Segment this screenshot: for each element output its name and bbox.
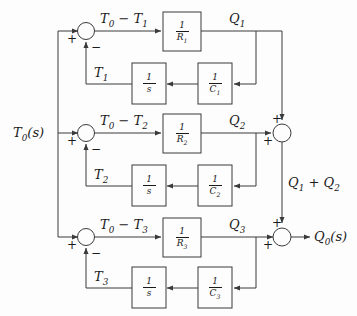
intermediate-sum-label: Q1 + Q2 <box>288 176 340 192</box>
branch-3-integrator-block-label: 1s <box>132 277 166 298</box>
branch-2-feedback-label: T2 <box>94 168 108 184</box>
branch-1-sum-minus: − <box>91 41 101 53</box>
input-signal-label: T0(s) <box>13 126 44 142</box>
lower-adder-plus-top: + <box>272 217 282 229</box>
lower-adder-plus-left: + <box>263 239 273 251</box>
upper-adder-plus-left: + <box>263 135 273 147</box>
branch-1-gain-block-label: 1R1 <box>163 21 201 44</box>
branch-3-flow-label: Q3 <box>229 218 245 234</box>
branch-3-error-label: T0 − T3 <box>100 218 148 234</box>
branch-2-gain-block-label: 1R2 <box>163 123 201 146</box>
branch-3-feedback-label: T3 <box>94 270 108 286</box>
branch-2-integrator-block-label: 1s <box>132 175 166 196</box>
branch-1-flow-label: Q1 <box>229 12 245 28</box>
branch-3-gain-block-label: 1R3 <box>163 227 201 250</box>
branch-3-capacitance-block-label: 1C3 <box>198 277 232 300</box>
branch-1-feedback-label: T1 <box>94 66 108 82</box>
branch-2-sum-minus: − <box>91 143 101 155</box>
branch-3-sum-minus: − <box>91 247 101 259</box>
branch-1-integrator-block-label: 1s <box>132 73 166 94</box>
branch-2-sum-plus: + <box>67 135 77 147</box>
output-signal-label: Q0(s) <box>314 230 347 246</box>
branch-2-capacitance-block-label: 1C2 <box>198 175 232 198</box>
diagram-canvas <box>0 0 357 316</box>
branch-1-capacitance-block-label: 1C1 <box>198 73 232 96</box>
branch-1-sum-plus: + <box>67 33 77 45</box>
branch-3-sum-plus: + <box>67 239 77 251</box>
branch-2-flow-label: Q2 <box>229 114 245 130</box>
block-diagram: T0(s) Q0(s) Q1 + Q2 T0 − T1 Q1 T1 + − T0… <box>0 0 357 316</box>
upper-adder-plus-top: + <box>272 113 282 125</box>
branch-1-error-label: T0 − T1 <box>100 12 148 28</box>
branch-2-error-label: T0 − T2 <box>100 114 148 130</box>
